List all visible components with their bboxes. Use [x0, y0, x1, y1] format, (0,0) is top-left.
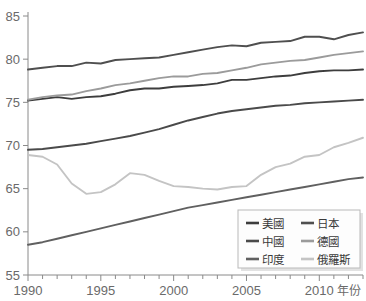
legend-label-4: 印度: [262, 253, 285, 267]
y-tick-label: 55: [6, 268, 20, 283]
y-tick-label: 65: [6, 181, 20, 196]
line-chart: 5560657075808519901995200020052010年份 美國日…: [0, 0, 366, 301]
y-tick-label: 80: [6, 52, 20, 67]
legend-label-3: 德國: [317, 235, 339, 249]
legend-label-5: 俄羅斯: [317, 253, 351, 267]
x-axis-title: 年份: [337, 284, 361, 298]
y-tick-label: 85: [6, 9, 20, 24]
y-tick-label: 75: [6, 95, 20, 110]
legend-label-0: 美國: [262, 217, 284, 231]
x-tick-label: 2000: [159, 283, 188, 298]
legend-label-1: 日本: [317, 217, 340, 231]
x-tick-label: 2005: [232, 283, 261, 298]
legend-label-2: 中國: [262, 235, 284, 249]
x-tick-label: 1995: [86, 283, 115, 298]
legend-layer[interactable]: 美國日本中國德國印度俄羅斯: [238, 210, 363, 271]
chart-canvas: 5560657075808519901995200020052010年份 美國日…: [0, 0, 366, 301]
series-line-1: [28, 32, 363, 69]
y-tick-label: 70: [6, 138, 20, 153]
x-tick-label: 2010: [305, 283, 334, 298]
y-tick-label: 60: [6, 224, 20, 239]
series-line-3: [28, 51, 363, 99]
series-line-2: [28, 100, 363, 150]
x-tick-label: 1990: [14, 283, 43, 298]
